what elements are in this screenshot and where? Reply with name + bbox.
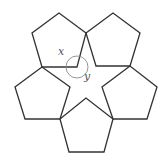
pentagon-ring-diagram: x y	[0, 0, 166, 160]
pentagon-top-right	[86, 13, 140, 66]
pentagon-bottom	[60, 98, 113, 152]
angle-label-x: x	[58, 45, 65, 58]
pentagon-top-left	[32, 13, 86, 67]
pentagon-left	[15, 67, 70, 119]
pentagon-right	[102, 66, 157, 119]
angle-label-y: y	[83, 70, 91, 83]
